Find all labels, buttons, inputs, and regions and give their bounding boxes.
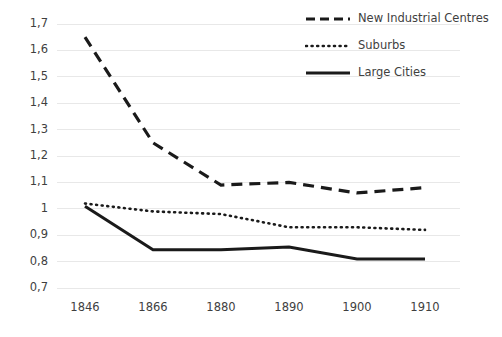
x-tick-label: 1866 [138,302,167,314]
legend-item: Suburbs [305,39,489,53]
legend-item-label: Large Cities [358,67,426,79]
dotted-line-sample [305,41,351,51]
solid-line-sample [305,68,351,78]
x-tick-label: 1880 [206,302,235,314]
chart-legend: New Industrial CentresSuburbsLarge Citie… [305,12,489,80]
x-tick-label: 1846 [70,302,99,314]
legend-item-label: Suburbs [358,40,405,52]
x-tick-label: 1900 [342,302,371,314]
legend-item: New Industrial Centres [305,12,489,26]
dashed-line-sample [305,14,351,24]
line-chart: 0,70,80,911,11,21,31,41,51,61,7 18461866… [0,0,502,337]
legend-item: Large Cities [305,66,489,80]
x-tick-label: 1910 [410,302,439,314]
x-tick-label: 1890 [274,302,303,314]
legend-item-label: New Industrial Centres [358,13,489,25]
